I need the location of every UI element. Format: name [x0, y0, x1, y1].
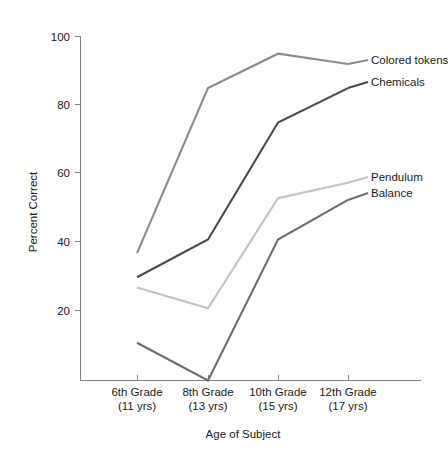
- x-label-1-grade: 8th Grade: [182, 386, 233, 398]
- x-label-2-age: (15 yrs): [259, 400, 298, 412]
- y-axis-title: Percent Correct: [27, 171, 39, 252]
- series-chemicals: [137, 82, 368, 277]
- y-tick-label-40: 40: [57, 236, 70, 248]
- x-label-2-grade: 10th Grade: [249, 386, 307, 398]
- series-colored-tokens: [137, 54, 368, 254]
- x-axis-title: Age of Subject: [206, 428, 282, 440]
- y-tick-label-100: 100: [51, 31, 70, 43]
- y-tick-label-20: 20: [57, 305, 70, 317]
- series-balance-line: [137, 200, 348, 381]
- line-chart: 100 80 60 40 20 6th Grade (11 yrs) 8th G…: [0, 0, 448, 454]
- x-label-0-grade: 6th Grade: [111, 386, 162, 398]
- x-label-3-grade: 12th Grade: [319, 386, 377, 398]
- x-label-0-age: (11 yrs): [118, 400, 156, 412]
- series-label-chemicals: Chemicals: [371, 76, 425, 88]
- y-tick-label-80: 80: [57, 99, 70, 111]
- series-pendulum-line: [137, 183, 348, 309]
- series-balance-leader: [348, 193, 368, 200]
- series-colored-tokens-leader: [348, 60, 368, 64]
- x-label-1-age: (13 yrs): [189, 400, 228, 412]
- chart-canvas: 100 80 60 40 20 6th Grade (11 yrs) 8th G…: [0, 0, 448, 454]
- series-chemicals-leader: [348, 82, 368, 88]
- x-label-3-age: (17 yrs): [329, 400, 368, 412]
- series-pendulum-leader: [348, 177, 368, 183]
- series-balance: [137, 193, 368, 381]
- y-tick-label-60: 60: [57, 167, 70, 179]
- series-chemicals-line: [137, 88, 348, 277]
- series-label-colored-tokens: Colored tokens: [371, 54, 448, 66]
- series-label-balance: Balance: [371, 187, 413, 199]
- series-colored-tokens-line: [137, 54, 348, 254]
- series-label-pendulum: Pendulum: [371, 171, 423, 183]
